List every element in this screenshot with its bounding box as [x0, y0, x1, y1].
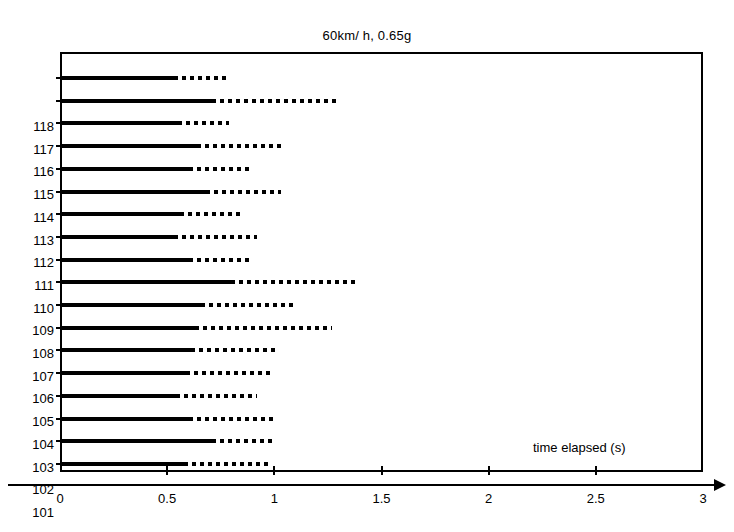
bar-row — [60, 280, 356, 284]
bar-row — [60, 303, 294, 307]
bar-segment-dotted — [231, 280, 355, 284]
x-axis-tick-label: 0 — [40, 492, 80, 506]
bar-segment-dotted — [176, 394, 257, 398]
bar-segment-dotted — [206, 190, 281, 194]
bar-row — [60, 190, 281, 194]
y-axis-tick-label: 104 — [0, 438, 54, 451]
bar-segment-solid — [60, 235, 174, 239]
y-axis-tick-label: 105 — [0, 415, 54, 428]
bar-row — [60, 439, 276, 443]
x-axis-tick-mark — [381, 466, 383, 475]
y-axis-tick-label: 109 — [0, 324, 54, 337]
y-axis-tick-mark — [56, 168, 61, 170]
bar-row — [60, 144, 283, 148]
bar-segment-dotted — [212, 439, 276, 443]
bar-row — [60, 326, 332, 330]
x-axis-tick-label: 2.5 — [576, 492, 616, 506]
y-axis-tick-mark — [56, 395, 61, 397]
y-axis-tick-mark — [56, 440, 61, 442]
x-axis-tick-mark — [166, 466, 168, 475]
y-axis-tick-mark — [56, 418, 61, 420]
x-axis-tick-label: 3 — [683, 492, 723, 506]
x-axis-title: time elapsed (s) — [533, 440, 625, 455]
bar-row — [60, 121, 229, 125]
bar-segment-dotted — [195, 326, 332, 330]
y-axis-tick-mark — [56, 281, 61, 283]
bar-segment-dotted — [189, 258, 249, 262]
bar-segment-dotted — [212, 99, 338, 103]
y-axis-tick-mark — [56, 327, 61, 329]
y-axis-tick-label: 112 — [0, 256, 54, 269]
bar-segment-solid — [60, 212, 180, 216]
bar-segment-solid — [60, 371, 186, 375]
bar-segment-solid — [60, 348, 191, 352]
bar-segment-solid — [60, 326, 195, 330]
x-axis-tick-label: 1 — [254, 492, 294, 506]
bar-row — [60, 167, 249, 171]
y-axis-tick-label: 103 — [0, 461, 54, 474]
bar-segment-dotted — [180, 212, 244, 216]
y-axis-tick-mark — [56, 100, 61, 102]
chart-container: 60km/ h, 0.65g 1181171161151141131121111… — [0, 0, 734, 532]
y-axis-tick-label: 115 — [0, 188, 54, 201]
y-axis-tick-label: 101 — [0, 506, 54, 519]
x-axis-tick-mark — [595, 466, 597, 475]
bar-segment-dotted — [189, 417, 275, 421]
y-axis-tick-mark — [56, 77, 61, 79]
bar-row — [60, 258, 249, 262]
chart-title: 60km/ h, 0.65g — [0, 28, 734, 43]
y-axis-tick-label: 110 — [0, 302, 54, 315]
y-axis-tick-label: 118 — [0, 120, 54, 133]
x-axis-arrow-icon — [714, 479, 726, 491]
x-axis-tick-mark — [488, 466, 490, 475]
bar-segment-dotted — [201, 303, 293, 307]
plot-area — [60, 52, 703, 472]
y-axis-tick-mark — [56, 236, 61, 238]
bar-segment-dotted — [191, 348, 279, 352]
bar-row — [60, 371, 272, 375]
x-axis-tick-label: 2 — [469, 492, 509, 506]
bar-row — [60, 99, 339, 103]
y-axis-tick-label: 117 — [0, 143, 54, 156]
y-axis-tick-label: 114 — [0, 211, 54, 224]
bar-segment-solid — [60, 144, 197, 148]
y-axis-tick-mark — [56, 191, 61, 193]
bar-segment-solid — [60, 258, 189, 262]
y-axis-labels: 1181171161151141131121111101091081071061… — [0, 52, 54, 472]
bar-segment-solid — [60, 99, 212, 103]
bar-segment-solid — [60, 417, 189, 421]
y-axis-tick-mark — [56, 145, 61, 147]
bar-segment-solid — [60, 167, 189, 171]
y-axis-tick-label: 113 — [0, 234, 54, 247]
bar-segment-solid — [60, 303, 201, 307]
x-axis-tick-label: 1.5 — [362, 492, 402, 506]
y-axis-tick-mark — [56, 304, 61, 306]
x-axis-tick-mark — [273, 466, 275, 475]
y-axis-tick-label: 106 — [0, 392, 54, 405]
bar-segment-dotted — [189, 167, 249, 171]
bar-segment-solid — [60, 439, 212, 443]
y-axis-tick-label: 111 — [0, 279, 54, 292]
bar-segment-solid — [60, 280, 231, 284]
bar-segment-dotted — [174, 235, 258, 239]
y-axis-tick-mark — [56, 349, 61, 351]
y-axis-tick-mark — [56, 372, 61, 374]
y-axis-tick-mark — [56, 213, 61, 215]
y-axis-tick-label: 108 — [0, 347, 54, 360]
bar-row — [60, 212, 244, 216]
bar-row — [60, 76, 229, 80]
bar-row — [60, 235, 257, 239]
x-axis-tick-label: 0.5 — [147, 492, 187, 506]
bar-segment-solid — [60, 121, 178, 125]
bar-segment-dotted — [174, 76, 230, 80]
bar-segment-dotted — [184, 462, 272, 466]
bar-segment-solid — [60, 190, 206, 194]
bar-segment-dotted — [186, 371, 272, 375]
y-axis-tick-mark — [56, 122, 61, 124]
x-axis-line — [8, 484, 720, 486]
bar-segment-dotted — [197, 144, 283, 148]
bar-row — [60, 348, 279, 352]
y-axis-tick-label: 107 — [0, 370, 54, 383]
bar-row — [60, 394, 257, 398]
bar-segment-solid — [60, 394, 176, 398]
